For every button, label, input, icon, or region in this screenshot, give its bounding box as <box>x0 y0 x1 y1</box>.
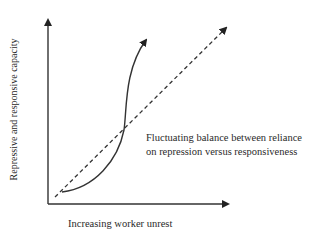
y-axis-label: Repressive and responsive capacity <box>8 35 19 185</box>
annotation-line-2: on repression versus responsiveness <box>146 145 302 159</box>
annotation: Fluctuating balance between reliance on … <box>146 131 302 159</box>
annotation-line-1: Fluctuating balance between reliance <box>146 131 302 145</box>
diagram-canvas <box>0 0 319 234</box>
s-curve <box>62 40 146 192</box>
x-axis-label: Increasing worker unrest <box>68 218 172 229</box>
dashed-trend-line <box>55 28 226 197</box>
